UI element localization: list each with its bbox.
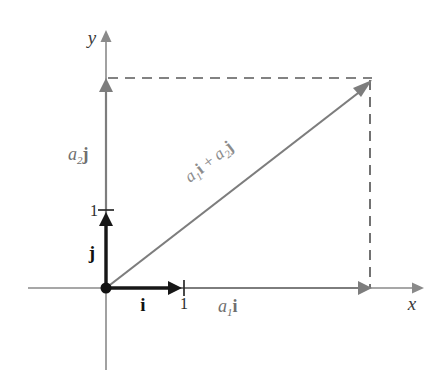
x-component-coef: a <box>218 296 227 316</box>
unit-vector-i <box>106 281 182 295</box>
resultant-vector <box>106 80 372 288</box>
y-axis-label: y <box>86 27 97 48</box>
x-axis-label: x <box>407 293 417 314</box>
resultant-shaft <box>106 90 362 288</box>
y-component-arrowhead <box>99 78 113 92</box>
y-axis-arrowhead <box>101 30 112 42</box>
y-tick-label-one: 1 <box>90 202 98 219</box>
vector-diagram-figure: x y 1 1 i j a1i a2j a1i+a2j <box>0 0 442 382</box>
unit-vector-i-arrowhead <box>168 281 182 295</box>
x-axis-arrowhead <box>412 283 424 294</box>
unit-vector-j-arrowhead <box>99 212 113 226</box>
vector-decomposition-svg: x y 1 1 i j a1i a2j a1i+a2j <box>0 0 442 382</box>
x-component-arrowhead <box>358 281 372 295</box>
origin-point <box>101 283 112 294</box>
unit-vector-j <box>99 212 113 288</box>
unit-vector-i-label: i <box>140 294 145 315</box>
x-component-unit: i <box>233 296 238 316</box>
resultant-vector-label: a1i+a2j <box>181 137 238 188</box>
x-tick-label-one: 1 <box>180 295 188 312</box>
y-component-unit: j <box>82 144 89 164</box>
unit-vector-j-label: j <box>88 242 95 263</box>
y-component-coef: a <box>68 144 77 164</box>
y-component-label: a2j <box>68 144 89 166</box>
axes-group <box>28 30 424 370</box>
x-component-label: a1i <box>218 296 238 318</box>
